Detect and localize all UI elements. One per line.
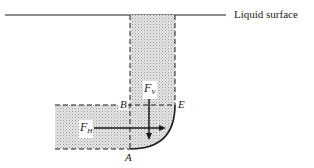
curved-region [130,105,175,149]
point-B-label: B [119,99,128,110]
horizontal-force-label: FH [79,120,93,138]
diagram-canvas [0,0,314,168]
point-A-label: A [125,152,132,163]
force-subscript-V: V [151,88,155,96]
force-subscript-H: H [87,127,92,135]
liquid-surface-label: Liquid surface [234,8,298,20]
point-E-label: E [178,99,185,110]
vertical-force-label: FV [143,81,157,99]
